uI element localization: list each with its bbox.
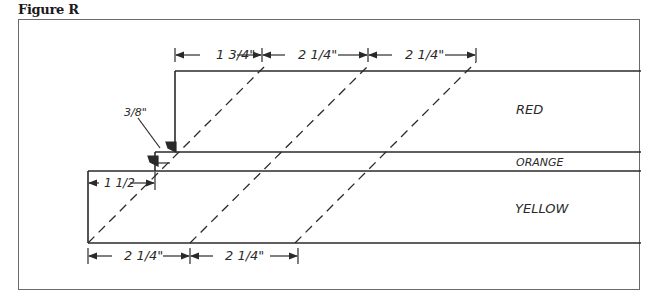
dim-top-2: 2 1/4" [298, 47, 337, 62]
dim-top-1: 1 3/4" [216, 47, 255, 62]
dim-bottom-1: 2 1/4" [124, 248, 163, 263]
label-yellow: YELLOW [515, 201, 569, 216]
dim-top-3: 2 1/4" [405, 47, 444, 62]
label-red: RED [516, 102, 543, 117]
dim-bottom-2: 2 1/4" [225, 248, 264, 263]
strip-layout-drawing: 1 3/4" 2 1/4" 2 1/4" 3/8" 1 1/2 2 1/4" 2… [0, 0, 657, 300]
red-strip [175, 71, 641, 152]
orange-strip [155, 152, 641, 171]
label-orange: ORANGE [516, 156, 564, 169]
dim-left-offset: 1 1/2 [104, 176, 135, 190]
bottom-dimension-line [88, 248, 298, 264]
step-detail [138, 118, 176, 166]
dim-step: 3/8" [124, 106, 147, 119]
